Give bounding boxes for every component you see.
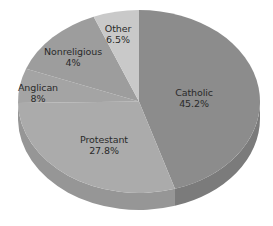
slice-label-nonreligious: Nonreligious 4% (44, 46, 102, 68)
slice-value: 45.2% (175, 98, 213, 109)
slice-name: Protestant (80, 134, 128, 145)
slice-name: Anglican (18, 82, 58, 93)
slice-label-catholic: Catholic 45.2% (175, 87, 213, 109)
slice-name: Catholic (175, 87, 213, 98)
slice-label-other: Other 6.5% (105, 23, 131, 45)
slice-value: 6.5% (105, 34, 131, 45)
slice-value: 4% (44, 57, 102, 68)
slice-name: Nonreligious (44, 46, 102, 57)
pie-chart (0, 0, 273, 226)
slice-label-anglican: Anglican 8% (18, 82, 58, 104)
slice-name: Other (105, 23, 131, 34)
slice-value: 8% (18, 93, 58, 104)
slice-value: 27.8% (80, 145, 128, 156)
slice-label-protestant: Protestant 27.8% (80, 134, 128, 156)
